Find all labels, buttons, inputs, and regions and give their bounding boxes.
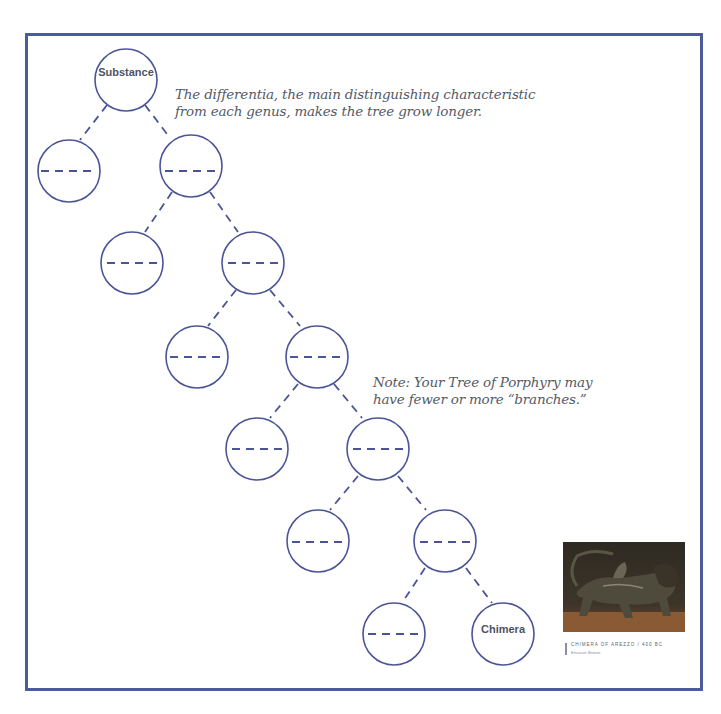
chimera-artwork-image: [563, 542, 685, 632]
caption-accent-bar: [565, 643, 567, 655]
branches-note-line1: Note: Your Tree of Porphyry may: [373, 374, 592, 391]
artwork-caption-subtitle: Etruscan Bronze: [571, 650, 601, 655]
artwork-caption-title: CHIMERA OF AREZZO / 400 BC: [571, 642, 663, 647]
leaf-node-label: Chimera: [468, 623, 538, 635]
chimera-sculpture-icon: [563, 542, 685, 632]
differentia-note: The differentia, the main distinguishing…: [175, 86, 535, 120]
root-node-label: Substance: [91, 66, 161, 78]
branches-note: Note: Your Tree of Porphyry may have few…: [373, 374, 592, 408]
node-l1-right: [160, 135, 222, 197]
differentia-note-line2: from each genus, makes the tree grow lon…: [175, 103, 535, 120]
differentia-note-line1: The differentia, the main distinguishing…: [175, 86, 535, 103]
node-l5-right: [414, 510, 476, 572]
node-root: [95, 49, 157, 111]
branches-note-line2: have fewer or more “branches.”: [373, 391, 592, 408]
node-l5-left: [287, 510, 349, 572]
